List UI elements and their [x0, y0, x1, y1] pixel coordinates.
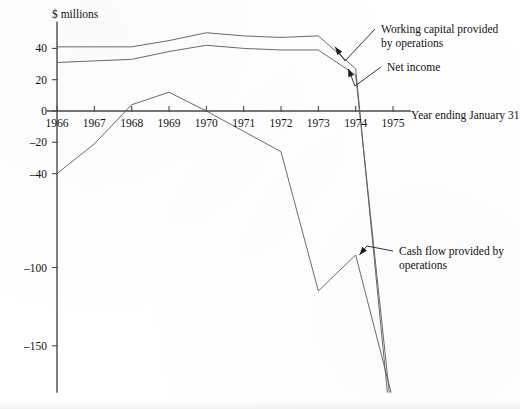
y-axis-unit-label: $ millions	[52, 8, 99, 20]
y-tick-label: –150	[23, 340, 47, 352]
x-tick-label: 1974	[344, 117, 367, 129]
y-tick-label: –100	[23, 262, 47, 274]
x-tick-label: 1971	[232, 117, 255, 129]
annotation-label-working-capital-line2: by operations	[381, 37, 444, 50]
x-tick-label: 1968	[120, 117, 143, 129]
annotation-label-working-capital: Working capital provided	[381, 23, 498, 36]
x-tick-label: 1969	[158, 117, 181, 129]
x-tick-label: 1975	[382, 117, 405, 129]
chart-figure: 40200–20–40–100–150 19661967196819691970…	[0, 0, 520, 409]
annotation-label-cash-flow: Cash flow provided by	[399, 245, 504, 258]
x-tick-label: 1967	[83, 117, 106, 129]
y-tick-label: 40	[36, 42, 48, 54]
x-tick-label: 1972	[270, 117, 293, 129]
annotation-label-cash-flow-line2: operations	[399, 259, 447, 272]
x-tick-label: 1966	[46, 117, 69, 129]
line-chart: 40200–20–40–100–150 19661967196819691970…	[0, 0, 520, 409]
y-tick-label: 20	[36, 74, 48, 86]
annotation-label-net-income: Net income	[387, 61, 440, 73]
x-axis-caption: Year ending January 31	[411, 109, 520, 122]
y-tick-label: –40	[29, 168, 48, 180]
x-tick-label: 1973	[307, 117, 330, 129]
x-tick-label: 1970	[195, 117, 218, 129]
y-tick-label: 0	[41, 105, 47, 117]
y-tick-label: –20	[29, 136, 48, 148]
